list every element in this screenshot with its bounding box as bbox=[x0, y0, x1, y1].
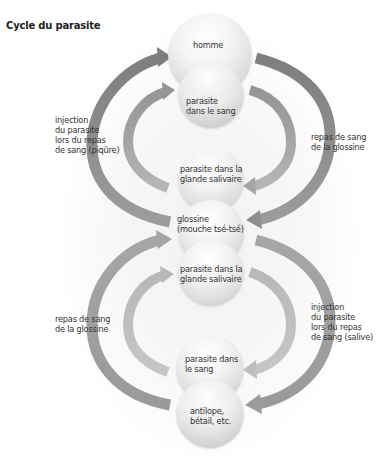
label-bottom-right: injection du parasite lors du repas de s… bbox=[311, 302, 373, 342]
label-homme: homme bbox=[193, 40, 223, 50]
label-parasite-glande-bottom: parasite dans la glande salivaire bbox=[180, 264, 242, 284]
arrow-top-right-inner bbox=[243, 90, 291, 195]
sphere-parasite-sang-top bbox=[178, 62, 244, 128]
label-antilope: antilope, bétail, etc. bbox=[190, 406, 231, 426]
label-parasite-sang-bottom: parasite dans le sang bbox=[185, 354, 238, 374]
label-parasite-sang-top: parasite dans le sang bbox=[186, 96, 235, 116]
label-top-right: repas de sang de la glossine bbox=[311, 132, 366, 152]
arrow-bottom-right-inner bbox=[243, 272, 291, 379]
label-parasite-glande-top: parasite dans la glande salivaire bbox=[180, 164, 242, 184]
label-glossine: glossine (mouche tsé-tsé) bbox=[177, 214, 244, 234]
label-bottom-left: repas de sang de la glossine bbox=[55, 314, 110, 334]
arrow-bottom-left-inner bbox=[128, 266, 174, 372]
arrow-top-left-inner bbox=[128, 82, 175, 188]
label-top-left: injection du parasite lors du repas de s… bbox=[55, 115, 119, 155]
